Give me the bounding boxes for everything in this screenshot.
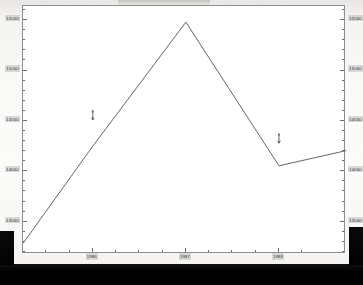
x-major-tick-1986 [92, 248, 93, 252]
y-minor-tick-right-13600 [342, 211, 344, 212]
y-minor-tick-left-14300 [23, 140, 25, 141]
y-minor-tick-right-13300 [342, 241, 344, 242]
y-minor-tick-left-15400 [23, 29, 25, 30]
y-minor-tick-left-13600 [23, 211, 25, 212]
data-series-line [23, 22, 346, 243]
y-axis-label-left-14000-text: 14000 [5, 166, 20, 172]
y-major-tick-right-15500 [340, 19, 344, 20]
y-major-tick-right-15000 [340, 70, 344, 71]
x-axis-label-1987: 1987 [176, 255, 194, 259]
y-minor-tick-right-13400 [342, 231, 344, 232]
x-axis-label-1988-text: 1988 [272, 253, 284, 259]
y-axis-label-right-15000-text: 15000 [348, 65, 363, 71]
x-minor-tick [45, 250, 46, 252]
x-axis-label-1987-text: 1987 [179, 253, 191, 259]
y-axis-label-left-14500: 14500 [1, 117, 20, 121]
y-axis-label-left-15500: 15500 [1, 17, 20, 21]
y-minor-tick-right-14300 [342, 140, 344, 141]
y-minor-tick-left-14700 [23, 100, 25, 101]
y-major-tick-left-14000 [23, 170, 27, 171]
y-axis-label-left-13500-text: 13500 [5, 217, 20, 223]
y-major-tick-left-15000 [23, 70, 27, 71]
scan-artifact-left-block [0, 231, 14, 265]
y-minor-tick-left-13400 [23, 231, 25, 232]
y-major-tick-right-14000 [340, 170, 344, 171]
x-minor-tick [208, 250, 209, 252]
y-minor-tick-left-15600 [23, 9, 25, 10]
x-minor-tick [69, 250, 70, 252]
x-minor-tick [231, 250, 232, 252]
annotation-markers [92, 110, 281, 143]
y-minor-tick-right-13700 [342, 201, 344, 202]
y-minor-tick-left-14900 [23, 80, 25, 81]
y-axis-label-left-15000-text: 15000 [5, 65, 20, 71]
y-minor-tick-right-14600 [342, 110, 344, 111]
y-minor-tick-right-15600 [342, 9, 344, 10]
y-axis-label-left-14000: 14000 [1, 168, 20, 172]
y-minor-tick-right-15400 [342, 29, 344, 30]
y-axis-label-left-15500-text: 15500 [5, 15, 20, 21]
scan-artifact-right-block [349, 227, 363, 265]
x-minor-tick [162, 250, 163, 252]
chart-canvas [23, 6, 346, 254]
y-minor-tick-left-15200 [23, 49, 25, 50]
y-minor-tick-right-14700 [342, 100, 344, 101]
y-minor-tick-right-13900 [342, 180, 344, 181]
y-axis-label-right-13500-text: 13500 [348, 217, 363, 223]
y-axis-label-right-14000: 14000 [348, 168, 363, 172]
annotation-dagger-arrow-2 [278, 133, 281, 143]
x-minor-tick [255, 250, 256, 252]
y-axis-label-right-13500: 13500 [348, 218, 363, 222]
y-major-tick-left-14500 [23, 120, 27, 121]
y-minor-tick-right-14800 [342, 90, 344, 91]
y-minor-tick-left-13700 [23, 201, 25, 202]
x-minor-tick [301, 250, 302, 252]
y-axis-label-left-15000: 15000 [1, 67, 20, 71]
y-minor-tick-left-15100 [23, 59, 25, 60]
x-minor-tick [138, 250, 139, 252]
y-axis-label-right-14500-text: 14500 [348, 116, 363, 122]
y-minor-tick-left-14200 [23, 150, 25, 151]
x-major-tick-1987 [185, 248, 186, 252]
y-major-tick-left-15500 [23, 19, 27, 20]
y-minor-tick-left-13800 [23, 190, 25, 191]
scan-artifact-bottom-band [0, 264, 363, 285]
x-axis-label-1986-text: 1986 [86, 253, 98, 259]
y-minor-tick-right-13200 [342, 251, 344, 252]
y-minor-tick-right-14100 [342, 160, 344, 161]
y-minor-tick-right-13800 [342, 190, 344, 191]
y-axis-label-right-15500-text: 15500 [348, 15, 363, 21]
y-minor-tick-left-13900 [23, 180, 25, 181]
y-minor-tick-left-14600 [23, 110, 25, 111]
x-major-tick-1988 [278, 248, 279, 252]
y-minor-tick-right-14200 [342, 150, 344, 151]
y-axis-label-right-14000-text: 14000 [348, 166, 363, 172]
chart-plot-frame [22, 5, 345, 253]
y-minor-tick-left-15300 [23, 39, 25, 40]
x-axis-label-1986: 1986 [83, 255, 101, 259]
y-minor-tick-left-13300 [23, 241, 25, 242]
y-minor-tick-left-14800 [23, 90, 25, 91]
x-minor-tick [115, 250, 116, 252]
y-minor-tick-left-14100 [23, 160, 25, 161]
y-axis-label-left-13500: 13500 [1, 218, 20, 222]
y-major-tick-right-13500 [340, 221, 344, 222]
y-minor-tick-right-14400 [342, 130, 344, 131]
y-minor-tick-left-13200 [23, 251, 25, 252]
y-major-tick-left-13500 [23, 221, 27, 222]
y-minor-tick-right-15100 [342, 59, 344, 60]
y-axis-label-left-14500-text: 14500 [5, 116, 20, 122]
y-axis-label-right-14500: 14500 [348, 117, 363, 121]
x-axis-label-1988: 1988 [269, 255, 287, 259]
y-axis-label-right-15500: 15500 [348, 17, 363, 21]
y-major-tick-right-14500 [340, 120, 344, 121]
y-minor-tick-right-15300 [342, 39, 344, 40]
y-minor-tick-right-15200 [342, 49, 344, 50]
y-minor-tick-right-14900 [342, 80, 344, 81]
annotation-dagger-arrow-1 [92, 110, 95, 120]
y-axis-label-right-15000: 15000 [348, 67, 363, 71]
y-minor-tick-left-14400 [23, 130, 25, 131]
